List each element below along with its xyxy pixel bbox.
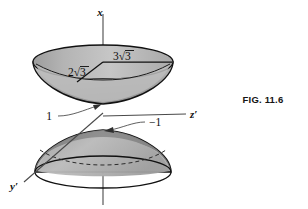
label-lower-vertex: −1 <box>149 116 161 128</box>
major-radius-radicand: 3 <box>125 50 131 62</box>
callout-lower-vertex <box>104 122 145 133</box>
axis-z-prime <box>103 114 186 116</box>
svg-text:3√3: 3√3 <box>113 50 131 62</box>
figure-11-6: x z′ y′ 2√3 3√3 1 −1 FIG. 11.6 <box>0 0 308 209</box>
label-upper-vertex: 1 <box>46 110 52 122</box>
upper-cone-nappe <box>33 45 173 104</box>
axis-label-x: x <box>96 6 103 18</box>
svg-text:2√3: 2√3 <box>68 66 86 78</box>
axis-label-z-prime: z′ <box>189 108 197 120</box>
minor-radius-radicand: 3 <box>80 66 86 78</box>
axis-label-y-prime: y′ <box>8 180 18 192</box>
callout-upper-vertex <box>58 104 102 116</box>
figure-caption: FIG. 11.6 <box>226 94 300 105</box>
